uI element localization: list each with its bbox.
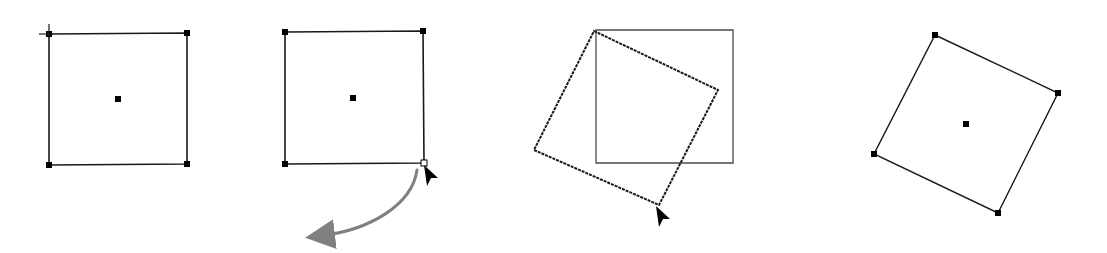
original-square-outline bbox=[596, 30, 733, 163]
selection-handle bbox=[1055, 90, 1061, 96]
selection-handle bbox=[184, 30, 190, 36]
selection-handle bbox=[871, 151, 877, 157]
center-point bbox=[115, 96, 121, 102]
pointer-cursor-icon bbox=[424, 165, 438, 186]
pointer-cursor-icon bbox=[656, 206, 670, 227]
selection-handle bbox=[932, 32, 938, 38]
step-2-drag-corner bbox=[282, 28, 438, 236]
selection-handle bbox=[282, 161, 288, 167]
selection-handle bbox=[282, 29, 288, 35]
step-4-rotated-square bbox=[871, 32, 1061, 216]
rotated-preview-outline bbox=[534, 31, 718, 205]
selection-handle bbox=[184, 161, 190, 167]
center-point bbox=[963, 121, 969, 127]
rotation-arrow-icon bbox=[320, 170, 417, 236]
grabbed-corner-handle bbox=[421, 160, 427, 166]
center-point bbox=[350, 95, 356, 101]
rotation-diagram bbox=[0, 0, 1107, 253]
step-3-rotating bbox=[534, 30, 733, 227]
step-1-selected-square bbox=[39, 24, 190, 168]
selection-handle bbox=[995, 210, 1001, 216]
selection-handle bbox=[420, 28, 426, 34]
selection-handle bbox=[46, 162, 52, 168]
